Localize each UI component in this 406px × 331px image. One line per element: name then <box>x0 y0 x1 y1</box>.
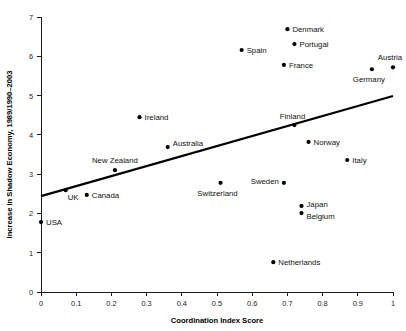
y-tick-label: 6 <box>29 52 33 61</box>
data-point-australia <box>166 145 170 149</box>
data-point-spain <box>240 48 244 52</box>
point-label-sweden: Sweden <box>251 177 279 186</box>
point-label-portugal: Portugal <box>299 40 328 49</box>
data-point-netherlands <box>271 260 275 264</box>
x-tick-label: 0.3 <box>141 299 151 308</box>
y-tick-labels: 01234567 <box>29 13 33 297</box>
point-label-spain: Spain <box>247 46 267 55</box>
data-point-belgium <box>299 211 303 215</box>
y-tick-label: 1 <box>29 249 33 258</box>
x-tick-marks <box>41 292 393 296</box>
data-point-portugal <box>292 42 296 46</box>
x-tick-label: 0.1 <box>71 299 81 308</box>
x-tick-labels: 00.10.20.30.40.50.60.70.80.91 <box>39 299 395 308</box>
point-label-denmark: Denmark <box>292 25 324 34</box>
data-point-france <box>282 63 286 67</box>
point-labels-group: USAUKCanadaNew ZealandIrelandAustraliaSw… <box>46 25 403 267</box>
point-label-canada: Canada <box>92 191 120 200</box>
point-label-ireland: Ireland <box>145 113 169 122</box>
x-tick-label: 0.9 <box>353 299 363 308</box>
data-point-finland <box>292 123 296 127</box>
x-axis-title: Coordination Index Score <box>171 316 263 325</box>
point-label-belgium: Belgium <box>306 212 334 221</box>
data-point-ireland <box>137 115 141 119</box>
x-tick-label: 0.2 <box>106 299 116 308</box>
point-label-norway: Norway <box>314 138 341 147</box>
point-label-usa: USA <box>46 218 63 227</box>
y-axis-title: Increase in Shadow Economy, 1989/1990–20… <box>5 71 14 239</box>
point-label-australia: Australia <box>173 139 204 148</box>
point-label-switzerland: Switzerland <box>197 189 237 198</box>
point-label-netherlands: Netherlands <box>278 258 320 267</box>
trend-line-group <box>41 96 393 196</box>
point-label-japan: Japan <box>306 200 327 209</box>
x-tick-label: 0.4 <box>177 299 187 308</box>
point-label-new-zealand: New Zealand <box>92 156 138 165</box>
data-point-italy <box>345 158 349 162</box>
y-tick-label: 5 <box>29 92 33 101</box>
point-label-uk: UK <box>68 193 80 202</box>
data-point-switzerland <box>218 181 222 185</box>
y-tick-label: 0 <box>29 288 33 297</box>
data-point-norway <box>306 140 310 144</box>
trend-line <box>41 96 393 196</box>
y-tick-marks <box>37 17 41 292</box>
point-label-finland: Finland <box>280 112 306 121</box>
y-tick-label: 3 <box>29 170 33 179</box>
data-point-denmark <box>285 27 289 31</box>
plot-svg: 00.10.20.30.40.50.60.70.80.91 01234567 U… <box>0 0 406 331</box>
x-tick-label: 0.5 <box>212 299 222 308</box>
data-point-canada <box>85 193 89 197</box>
data-point-austria <box>391 65 395 69</box>
data-point-germany <box>370 67 374 71</box>
scatter-chart-figure: 00.10.20.30.40.50.60.70.80.91 01234567 U… <box>0 0 406 331</box>
point-label-italy: Italy <box>352 156 366 165</box>
axes-group <box>41 17 393 292</box>
data-point-sweden <box>282 181 286 185</box>
point-label-france: France <box>289 61 313 70</box>
x-tick-label: 1 <box>391 299 395 308</box>
y-tick-label: 2 <box>29 209 33 218</box>
x-tick-label: 0.8 <box>317 299 327 308</box>
data-point-new-zealand <box>113 168 117 172</box>
data-point-usa <box>39 220 43 224</box>
point-label-germany: Germany <box>353 75 385 84</box>
x-tick-label: 0 <box>39 299 43 308</box>
data-point-uk <box>64 188 68 192</box>
y-tick-label: 7 <box>29 13 33 22</box>
point-label-austria: Austria <box>378 53 403 62</box>
y-tick-label: 4 <box>29 131 33 140</box>
x-tick-label: 0.7 <box>282 299 292 308</box>
x-tick-label: 0.6 <box>247 299 257 308</box>
data-point-japan <box>299 204 303 208</box>
